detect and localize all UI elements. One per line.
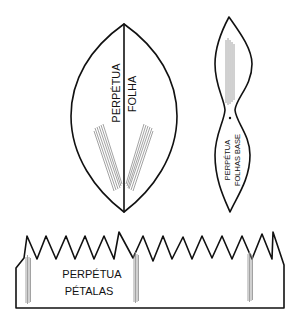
leaf-stripes-left: [94, 124, 122, 191]
leaf-label-line1: PERPÉTUA: [110, 63, 122, 123]
base-leaves-stripes: [226, 38, 234, 105]
base-leaves-template: PERPÉTUA FOLHAS BASE: [215, 17, 252, 212]
petals-label-line2: PÉTALAS: [65, 285, 114, 297]
petals-outline: [16, 232, 284, 308]
petals-template: PERPÉTUA PÉTALAS: [16, 232, 284, 308]
leaf-stripes-right: [126, 124, 153, 191]
base-leaves-center-dot: [229, 117, 231, 119]
leaf-template: PERPÉTUA FOLHA: [71, 24, 177, 212]
base-leaves-label-line2: FOLHAS BASE: [233, 134, 242, 186]
petals-stripes-left: [26, 255, 31, 304]
diagram-canvas: PERPÉTUA FOLHA PERPÉTUA FOLHAS BASE: [0, 0, 305, 328]
petals-label-line1: PERPÉTUA: [62, 268, 122, 280]
base-leaves-label-line1: PERPÉTUA: [223, 140, 232, 180]
petals-stripes-middle: [134, 252, 139, 303]
leaf-label-line2: FOLHA: [126, 75, 138, 112]
